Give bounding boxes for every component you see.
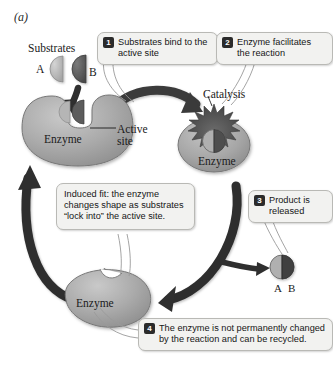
- step-1-callout: 1 Substrates bind to the active site: [97, 32, 218, 65]
- step-3-badge: 3: [254, 195, 265, 206]
- arrow-product-released: [222, 262, 270, 276]
- panel-label: (a): [14, 10, 28, 25]
- step-1-text: Substrates bind to the active site: [118, 37, 211, 59]
- substrate-b-label: B: [89, 66, 97, 78]
- step-2-text: Enzyme facilitates the reaction: [237, 37, 326, 59]
- induced-fit-text: Induced fit: the enzyme changes shape as…: [64, 189, 188, 223]
- enzyme-label-2: Enzyme: [198, 155, 236, 167]
- catalysis-label: Catalysis: [203, 88, 245, 100]
- enzyme-label-3: Enzyme: [76, 297, 114, 309]
- step-2-badge: 2: [222, 37, 233, 48]
- substrate-a-label: A: [36, 63, 44, 75]
- step-4-text: The enzyme is not permanently changed by…: [159, 323, 326, 345]
- step-4-badge: 4: [144, 323, 155, 334]
- induced-fit-callout: Induced fit: the enzyme changes shape as…: [56, 183, 195, 230]
- substrate-a-shape: [50, 56, 63, 82]
- product-in-active-site: [203, 130, 226, 153]
- step-1-badge: 1: [103, 37, 114, 48]
- active-site-label-line1: Active: [117, 123, 148, 135]
- step-4-callout: 4 The enzyme is not permanently changed …: [138, 318, 333, 351]
- step-2-callout: 2 Enzyme facilitates the reaction: [216, 32, 333, 65]
- step-3-callout: 3 Product is released: [248, 190, 333, 223]
- released-product: [270, 255, 294, 279]
- substrate-b-shape: [72, 55, 86, 83]
- substrates-label: Substrates: [28, 42, 75, 54]
- enzyme-label-1: Enzyme: [44, 133, 82, 145]
- product-ab-label: A B: [274, 282, 297, 294]
- active-site-label: Active site: [117, 123, 148, 147]
- active-site-label-line2: site: [117, 135, 133, 147]
- step-3-text: Product is released: [269, 195, 326, 217]
